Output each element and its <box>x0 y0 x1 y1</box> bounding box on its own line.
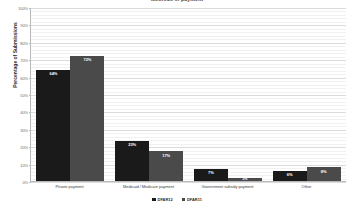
y-tick-label: 100% <box>18 6 28 11</box>
y-tick-label: 40% <box>20 110 28 115</box>
y-tick-label: 80% <box>20 40 28 45</box>
x-axis-labels: Private paymentMedicaid / Medicare payme… <box>30 184 346 189</box>
y-tick-label: 10% <box>20 162 28 167</box>
x-axis-category-label: Private payment <box>30 184 109 189</box>
y-tick-label: 50% <box>20 93 28 98</box>
y-tick-mark <box>29 182 32 183</box>
bar-group: 6%8% <box>267 8 346 181</box>
legend-swatch-icon <box>182 198 185 201</box>
bar[interactable]: 6% <box>273 171 307 181</box>
bar-value-label: 23% <box>128 143 136 147</box>
bar-value-label: 64% <box>50 72 58 76</box>
bar[interactable]: 7% <box>194 169 228 181</box>
y-tick-label: 30% <box>20 127 28 132</box>
y-tick-label: 70% <box>20 58 28 63</box>
bar[interactable]: 64% <box>36 70 70 181</box>
y-tick-label: 60% <box>20 75 28 80</box>
bar-groups: 64%72%23%17%7%2%6%8% <box>31 8 346 181</box>
chart-legend: DFAR12DFAR11 <box>0 197 354 202</box>
legend-item[interactable]: DFAR11 <box>182 197 202 202</box>
y-axis-title: Percentage of Submissions <box>12 0 18 110</box>
gridline <box>31 182 346 183</box>
bar-group: 23%17% <box>110 8 189 181</box>
legend-label: DFAR12 <box>158 197 173 202</box>
legend-label: DFAR11 <box>187 197 202 202</box>
y-tick-label: 0% <box>22 180 28 185</box>
chart-title: Methods of payment <box>0 0 354 2</box>
bar-chart: Methods of payment Percentage of Submiss… <box>0 0 354 208</box>
bar[interactable]: 8% <box>307 167 341 181</box>
y-tick-label: 20% <box>20 145 28 150</box>
bar-group: 7%2% <box>189 8 268 181</box>
bar-value-label: 72% <box>84 58 92 62</box>
bar-value-label: 2% <box>242 178 247 182</box>
bar-value-label: 8% <box>321 170 327 174</box>
plot-area: 0%10%20%30%40%50%60%70%80%90%100% 64%72%… <box>30 8 346 182</box>
bar[interactable]: 23% <box>115 141 149 181</box>
legend-item[interactable]: DFAR12 <box>152 197 172 202</box>
bar[interactable]: 17% <box>149 151 183 181</box>
legend-swatch-icon <box>152 198 155 201</box>
x-axis-category-label: Government subsidy payment <box>188 184 267 189</box>
bar-value-label: 6% <box>287 173 293 177</box>
bar[interactable]: 72% <box>70 56 104 181</box>
bar-group: 64%72% <box>31 8 110 181</box>
bar-value-label: 17% <box>162 154 170 158</box>
bar-value-label: 7% <box>208 171 214 175</box>
x-axis-category-label: Medicaid / Medicare payment <box>109 184 188 189</box>
bar[interactable]: 2% <box>228 178 262 181</box>
y-tick-label: 90% <box>20 23 28 28</box>
x-axis-category-label: Other <box>267 184 346 189</box>
